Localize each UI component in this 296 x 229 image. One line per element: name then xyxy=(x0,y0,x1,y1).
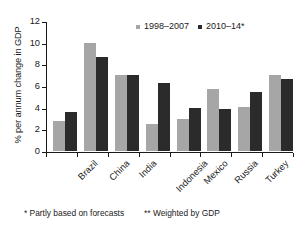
y-tick-label: 10 xyxy=(30,39,40,48)
footnotes: * Partly based on forecasts ** Weighted … xyxy=(24,209,292,217)
bar-group xyxy=(144,21,169,151)
y-tick-label: 4 xyxy=(35,104,40,113)
y-tick-label: 2 xyxy=(35,126,40,135)
legend-item: 1998–2007 xyxy=(136,22,189,31)
gdp-growth-bar-chart: % per annum change in GDP 024681012 Braz… xyxy=(0,0,296,229)
legend-label: 2010–14* xyxy=(206,22,245,31)
bar xyxy=(127,75,139,151)
x-tick-mark xyxy=(170,153,171,157)
y-tick-label: 6 xyxy=(35,82,40,91)
bar xyxy=(115,75,127,151)
y-tick-mark xyxy=(42,22,46,23)
bar xyxy=(65,112,77,151)
bar xyxy=(281,79,293,151)
bar-group xyxy=(236,21,261,151)
bar xyxy=(84,43,96,151)
y-tick-mark xyxy=(42,44,46,45)
category-label-india: India xyxy=(138,159,159,180)
y-tick-mark xyxy=(42,130,46,131)
bar xyxy=(269,75,281,151)
x-tick-mark xyxy=(231,153,232,157)
category-label-russia: Russia xyxy=(233,159,260,186)
x-tick-mark xyxy=(293,153,294,157)
legend-item: 2010–14* xyxy=(198,22,245,31)
x-tick-mark xyxy=(46,153,47,157)
footnote-forecasts: * Partly based on forecasts xyxy=(24,209,124,217)
bar xyxy=(219,109,231,151)
y-axis-title: % per annum change in GDP xyxy=(13,15,23,155)
legend-swatch-icon xyxy=(136,25,140,29)
bar-group xyxy=(51,21,76,151)
y-tick-mark xyxy=(42,109,46,110)
y-tick-label: 12 xyxy=(30,17,40,26)
category-label-turkey: Turkey xyxy=(264,159,290,185)
category-label-china: China xyxy=(108,159,132,183)
bar xyxy=(146,124,158,151)
bar xyxy=(189,108,201,151)
y-tick-label: 0 xyxy=(35,147,40,156)
bar-group xyxy=(113,21,138,151)
bar-group xyxy=(175,21,200,151)
legend-label: 1998–2007 xyxy=(144,22,189,31)
bar xyxy=(177,119,189,152)
plot-area: 024681012 BrazilChinaIndiaIndonesiaMexic… xyxy=(46,22,293,152)
category-label-brazil: Brazil xyxy=(77,159,100,182)
footnote-weighted: ** Weighted by GDP xyxy=(144,209,220,217)
bar xyxy=(238,107,250,151)
x-tick-mark xyxy=(139,153,140,157)
y-tick-mark xyxy=(42,87,46,88)
x-tick-mark xyxy=(108,153,109,157)
y-tick-mark xyxy=(42,65,46,66)
x-tick-mark xyxy=(200,153,201,157)
legend: 1998–20072010–14* xyxy=(136,22,245,31)
x-tick-mark xyxy=(77,153,78,157)
bar-group xyxy=(267,21,292,151)
bar-group xyxy=(82,21,107,151)
bar xyxy=(158,83,170,151)
y-tick-label: 8 xyxy=(35,61,40,70)
bar xyxy=(96,57,108,151)
x-tick-mark xyxy=(262,153,263,157)
bar xyxy=(53,121,65,151)
y-axis-line xyxy=(46,22,47,153)
bar xyxy=(250,92,262,151)
legend-swatch-icon xyxy=(198,25,202,29)
bar-group xyxy=(205,21,230,151)
bar xyxy=(207,89,219,151)
